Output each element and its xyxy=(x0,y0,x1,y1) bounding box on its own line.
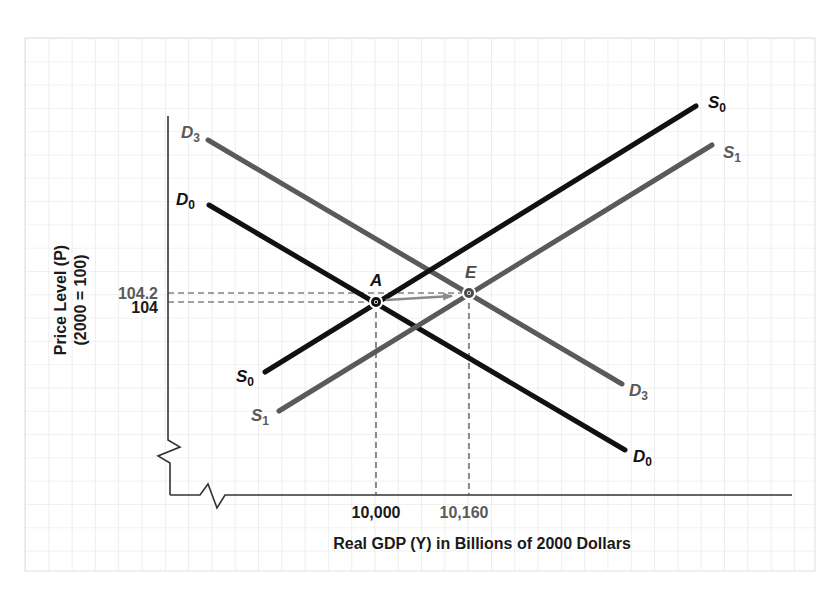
x-tick-10000: 10,000 xyxy=(352,504,401,521)
y-axis-subtitle: (2000 = 100) xyxy=(72,254,89,345)
y-axis-title: Price Level (P) xyxy=(52,245,69,355)
point-a-marker xyxy=(369,295,383,309)
point-e-marker xyxy=(462,286,476,300)
point-a-label: A xyxy=(369,271,382,290)
aggregate-supply-demand-chart: A E D3 D0 D3 D0 S0 S1 S0 S1 104.2 104 10… xyxy=(0,0,825,596)
point-e-label: E xyxy=(465,263,477,282)
x-tick-10160: 10,160 xyxy=(440,504,489,521)
y-tick-104: 104 xyxy=(131,299,158,316)
x-axis-title: Real GDP (Y) in Billions of 2000 Dollars xyxy=(333,535,631,552)
